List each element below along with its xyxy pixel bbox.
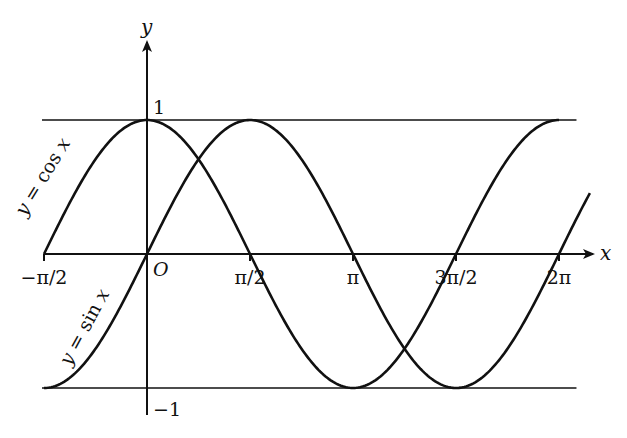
x-tick-label: 2π (547, 266, 572, 288)
y-axis-label: y (140, 15, 153, 39)
y-tick-label: 1 (153, 96, 165, 118)
y-tick-label: −1 (153, 398, 181, 420)
x-tick-label: π/2 (235, 266, 266, 288)
series-cos-label: y = cos x (9, 133, 74, 220)
x-tick-label: 3π/2 (434, 266, 477, 288)
origin-label: O (153, 258, 169, 280)
x-tick-label: −π/2 (21, 266, 68, 288)
x-tick-label: π (347, 266, 360, 288)
series-sin-label: y = sin x (54, 284, 114, 369)
sine-cosine-chart: x y O −π/2π/2π3π/22π1−1 y = cos xy = sin… (0, 0, 627, 438)
x-axis-label: x (600, 241, 611, 265)
